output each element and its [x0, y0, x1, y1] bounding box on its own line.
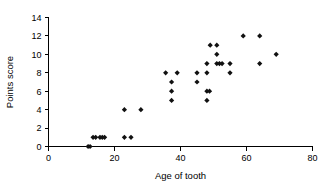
plot-canvas: 02040608002468101214Age of toothPoints s…: [0, 0, 332, 192]
data-point: [122, 135, 127, 140]
data-point: [169, 79, 174, 84]
data-point: [214, 43, 219, 48]
data-point: [122, 107, 127, 112]
data-point: [257, 61, 262, 66]
x-tick-label-60: 60: [241, 153, 251, 163]
data-point: [241, 33, 246, 38]
data-point: [169, 89, 174, 94]
data-point: [208, 43, 213, 48]
scatter-plot-figure: 02040608002468101214Age of toothPoints s…: [0, 0, 332, 192]
data-point: [274, 52, 279, 57]
x-tick-label-80: 80: [307, 153, 317, 163]
y-tick-label-0: 0: [36, 142, 41, 152]
data-point: [207, 89, 212, 94]
data-point: [194, 70, 199, 75]
data-point: [214, 52, 219, 57]
y-tick-label-10: 10: [31, 50, 41, 60]
x-tick-label-0: 0: [46, 153, 51, 163]
data-point: [204, 61, 209, 66]
x-tick-label-40: 40: [175, 153, 185, 163]
y-axis-title: Points score: [4, 56, 15, 108]
data-point: [204, 98, 209, 103]
y-tick-label-14: 14: [31, 13, 41, 23]
data-point: [169, 98, 174, 103]
y-tick-label-12: 12: [31, 31, 41, 41]
x-axis-title: Age of tooth: [155, 170, 206, 181]
y-tick-label-2: 2: [36, 123, 41, 133]
data-point: [227, 61, 232, 66]
y-tick-label-6: 6: [36, 87, 41, 97]
data-point: [204, 70, 209, 75]
data-point: [257, 33, 262, 38]
data-point: [138, 107, 143, 112]
data-point: [219, 61, 224, 66]
data-point: [227, 70, 232, 75]
y-tick-label-4: 4: [36, 105, 41, 115]
x-tick-label-20: 20: [109, 153, 119, 163]
y-tick-label-8: 8: [36, 68, 41, 78]
data-point: [194, 79, 199, 84]
data-point: [163, 70, 168, 75]
data-point: [175, 70, 180, 75]
data-point: [128, 135, 133, 140]
